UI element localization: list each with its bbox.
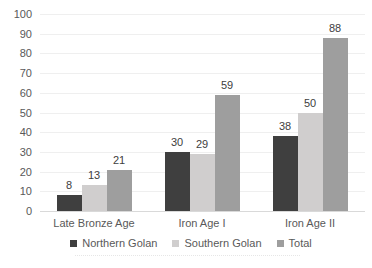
legend-swatch-icon [277, 240, 284, 247]
y-axis-tick-label: 80 [2, 48, 32, 59]
y-axis-tick-label: 40 [2, 127, 32, 138]
y-axis-tick-label: 20 [2, 167, 32, 178]
y-axis-tick-label: 70 [2, 68, 32, 79]
y-axis-tick-label: 10 [2, 186, 32, 197]
bar-value-label: 59 [205, 79, 250, 91]
chart-legend: Northern GolanSouthern GolanTotal [0, 237, 372, 249]
y-axis-tick-label: 50 [2, 108, 32, 119]
y-axis-tick-label: 60 [2, 88, 32, 99]
bar-southern-golan [190, 154, 215, 211]
bar-southern-golan [82, 185, 107, 211]
x-axis-category-label: Iron Age II [250, 217, 370, 230]
bar-total [107, 170, 132, 211]
gridline-y-90 [40, 34, 365, 35]
bar-total [323, 38, 348, 211]
bar-northern-golan [273, 136, 298, 211]
bar-total [215, 95, 240, 211]
legend-item-label: Northern Golan [82, 237, 157, 249]
plot-area: 010203040506070809010081321Late Bronze A… [0, 0, 372, 268]
gridline-y-80 [40, 53, 365, 54]
gridline-y-60 [40, 93, 365, 94]
bar-northern-golan [57, 195, 82, 211]
y-axis-tick-label: 90 [2, 29, 32, 40]
y-axis-tick-label: 0 [2, 206, 32, 217]
x-axis-category-label: Late Bronze Age [34, 217, 154, 230]
legend-item-label: Total [289, 237, 312, 249]
gridline-y-70 [40, 73, 365, 74]
bar-value-label: 88 [313, 22, 358, 34]
legend-item-southern-golan: Southern Golan [172, 237, 261, 249]
x-axis-line [40, 211, 365, 212]
legend-swatch-icon [70, 240, 77, 247]
y-axis-tick-label: 30 [2, 147, 32, 158]
bottom-divider [75, 255, 300, 256]
bar-value-label: 21 [97, 154, 142, 166]
legend-item-label: Southern Golan [184, 237, 261, 249]
bar-southern-golan [298, 113, 323, 212]
x-axis-category-label: Iron Age I [142, 217, 262, 230]
gridline-y-100 [40, 14, 365, 15]
bar-northern-golan [165, 152, 190, 211]
bar-chart: 010203040506070809010081321Late Bronze A… [0, 0, 372, 268]
legend-item-total: Total [277, 237, 312, 249]
legend-item-northern-golan: Northern Golan [70, 237, 157, 249]
legend-swatch-icon [172, 240, 179, 247]
y-axis-tick-label: 100 [2, 9, 32, 20]
